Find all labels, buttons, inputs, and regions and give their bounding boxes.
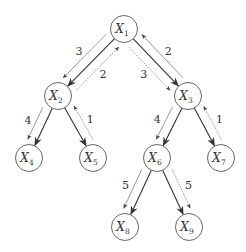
- message-x5-to-x2: 1: [74, 106, 94, 139]
- message-arrow: [142, 35, 183, 78]
- message-label: 5: [185, 179, 192, 192]
- message-x6-to-x8: 5: [122, 169, 142, 208]
- message-label: 3: [140, 68, 147, 81]
- message-label: 5: [122, 179, 129, 192]
- node-x2: X2: [45, 83, 72, 110]
- message-label: 2: [165, 45, 172, 58]
- node-x8: X8: [112, 214, 139, 241]
- message-x3-to-x6: 4: [154, 107, 173, 139]
- edge-x3-x7: [194, 108, 214, 146]
- message-label: 3: [75, 45, 82, 58]
- message-label: 1: [216, 113, 223, 126]
- message-x3-to-x1: 2: [142, 35, 183, 78]
- node-x4: X4: [16, 145, 43, 172]
- node-x1: X1: [111, 16, 138, 43]
- nodes-layer: X1X2X3X4X5X6X7X8X9: [16, 16, 235, 241]
- message-x2-to-x1: 2: [76, 47, 119, 90]
- message-label: 4: [25, 114, 32, 127]
- message-label: 1: [87, 113, 94, 126]
- message-x7-to-x3: 1: [204, 106, 223, 139]
- node-x3: X3: [175, 83, 202, 110]
- node-x5: X5: [80, 145, 107, 172]
- message-label: 4: [154, 113, 161, 126]
- node-x9: X9: [176, 214, 203, 241]
- message-x6-to-x9: 5: [172, 169, 192, 208]
- edge-x2-x5: [65, 108, 86, 146]
- edge-x6-x8: [131, 170, 151, 214]
- node-x7: X7: [208, 145, 235, 172]
- messages-layer: 3232414155: [25, 34, 223, 208]
- message-label: 2: [100, 68, 107, 81]
- node-x6: X6: [144, 145, 171, 172]
- edge-x6-x9: [163, 170, 183, 214]
- edge-x3-x6: [163, 108, 182, 145]
- message-arrow: [76, 47, 119, 90]
- tree-diagram: 3232414155 X1X2X3X4X5X6X7X8X9: [0, 0, 246, 252]
- edge-x2-x4: [35, 108, 52, 145]
